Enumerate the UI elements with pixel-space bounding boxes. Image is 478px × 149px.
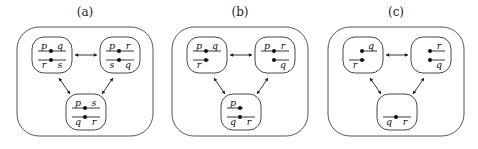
junction-dot bbox=[83, 106, 87, 110]
bidirectional-arrow bbox=[230, 53, 252, 56]
junction-dot bbox=[272, 49, 276, 53]
junction-dot bbox=[238, 106, 242, 110]
panel-title: (c) bbox=[388, 5, 404, 19]
node-frame bbox=[187, 37, 227, 73]
strand-label: q bbox=[75, 116, 81, 127]
junction-dot bbox=[49, 49, 53, 53]
arrowhead-icon bbox=[405, 53, 408, 56]
node-top-right: rq bbox=[411, 37, 451, 73]
node-frame bbox=[255, 37, 295, 73]
bidirectional-arrow bbox=[102, 78, 113, 94]
junction-dot bbox=[360, 49, 364, 53]
node-top-right: prsq bbox=[100, 37, 140, 73]
strand-label: p bbox=[109, 40, 115, 51]
node-top-left: pqr bbox=[187, 37, 227, 73]
junction-dot bbox=[49, 58, 53, 62]
strand-label: p bbox=[264, 40, 270, 51]
panel-b: (b)pqrprqpqr bbox=[172, 5, 308, 136]
junction-dot bbox=[238, 115, 242, 119]
junction-dot bbox=[428, 49, 432, 53]
junction-dot bbox=[117, 49, 121, 53]
bidirectional-arrow bbox=[257, 78, 268, 94]
node-frame bbox=[221, 94, 261, 130]
node-frame bbox=[411, 37, 451, 73]
strand-label: q bbox=[125, 59, 131, 70]
node-frame bbox=[66, 94, 106, 130]
node-frame bbox=[343, 37, 383, 73]
strand-label: p bbox=[230, 97, 236, 108]
strand-label: q bbox=[280, 59, 286, 70]
arrowhead-icon bbox=[75, 53, 78, 56]
bidirectional-arrow bbox=[75, 53, 97, 56]
junction-dot bbox=[204, 58, 208, 62]
bidirectional-arrow bbox=[386, 53, 408, 56]
strand-label: p bbox=[75, 97, 81, 108]
arrowhead-icon bbox=[230, 53, 233, 56]
node-frame bbox=[32, 37, 72, 73]
arrowhead-icon bbox=[249, 53, 252, 56]
node-top-left: pqrs bbox=[32, 37, 72, 73]
arrowhead-icon bbox=[386, 53, 389, 56]
node-frame bbox=[100, 37, 140, 73]
node-bottom: qr bbox=[377, 94, 417, 130]
node-top-right: prq bbox=[255, 37, 295, 73]
junction-dot bbox=[117, 58, 121, 62]
strand-label: s bbox=[92, 97, 97, 108]
node-bottom: psqr bbox=[66, 94, 106, 130]
junction-dot bbox=[360, 58, 364, 62]
panel-title: (a) bbox=[77, 5, 94, 19]
bidirectional-arrow bbox=[214, 78, 225, 94]
node-bottom: pqr bbox=[221, 94, 261, 130]
junction-dot bbox=[83, 115, 87, 119]
strand-label: q bbox=[368, 40, 374, 51]
arrowhead-icon bbox=[94, 53, 97, 56]
bidirectional-arrow bbox=[59, 78, 70, 94]
strand-label: p bbox=[41, 40, 47, 51]
junction-dot bbox=[394, 115, 398, 119]
strand-label: s bbox=[110, 59, 115, 70]
strand-label: p bbox=[196, 40, 202, 51]
node-frame bbox=[377, 94, 417, 130]
strand-label: q bbox=[230, 116, 236, 127]
strand-label: q bbox=[57, 40, 63, 51]
strand-label: q bbox=[212, 40, 218, 51]
node-top-left: qr bbox=[343, 37, 383, 73]
panel-a: (a)pqrsprsqpsqr bbox=[17, 5, 153, 136]
diagram: (a)pqrsprsqpsqr(b)pqrprqpqr(c)qrrqqr bbox=[0, 0, 478, 149]
strand-label: q bbox=[436, 59, 442, 70]
panel-title: (b) bbox=[231, 5, 248, 19]
junction-dot bbox=[204, 49, 208, 53]
panel-c: (c)qrrqqr bbox=[328, 5, 464, 136]
bidirectional-arrow bbox=[370, 78, 381, 94]
strand-label: s bbox=[58, 59, 63, 70]
strand-label: q bbox=[386, 116, 392, 127]
junction-dot bbox=[272, 58, 276, 62]
junction-dot bbox=[428, 58, 432, 62]
bidirectional-arrow bbox=[413, 78, 424, 94]
